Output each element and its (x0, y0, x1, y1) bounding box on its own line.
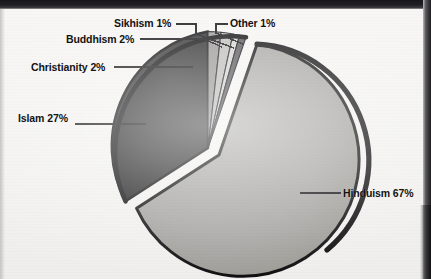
scan-edge-left (0, 9, 5, 279)
slice-label-islam: Islam 27% (18, 113, 68, 124)
slice-label-other: Other 1% (230, 18, 275, 29)
slice-label-christianity: Christianity 2% (31, 62, 105, 73)
scan-edge-top (0, 0, 431, 9)
pie-chart-svg (0, 0, 431, 279)
slice-label-hinduism: Hinduism 67% (343, 188, 414, 199)
slice-label-sikhism: Sikhism 1% (114, 18, 171, 29)
slice-label-buddhism: Buddhism 2% (66, 34, 134, 45)
pie-chart-page: Sikhism 1% Other 1% Buddhism 2% Christia… (0, 0, 431, 279)
pie-chart-figure (0, 0, 431, 279)
scan-edge-right-lower (420, 205, 431, 279)
